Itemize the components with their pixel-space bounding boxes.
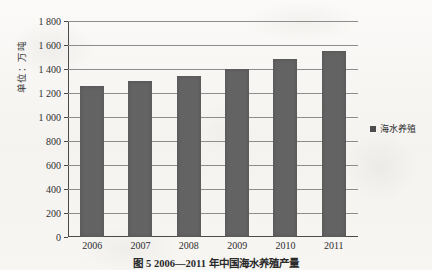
- chart-legend: 海水养殖: [370, 122, 416, 135]
- bar-slot: [68, 21, 116, 237]
- plot-area: 02004006008001 0001 2001 4001 6001 800: [68, 21, 358, 237]
- bar-2010: [273, 59, 297, 237]
- x-axis-label-2008: 2008: [165, 240, 213, 251]
- y-axis-tick-label: 1 200: [39, 88, 62, 99]
- y-axis-tick-label: 800: [46, 136, 61, 147]
- bars-layer: [68, 21, 358, 237]
- bar-slot: [165, 21, 213, 237]
- x-axis-label-2011: 2011: [310, 240, 358, 251]
- legend-label-0: 海水养殖: [380, 122, 416, 135]
- y-axis-tick-label: 400: [46, 184, 61, 195]
- y-axis-tick-label: 1 600: [39, 40, 62, 51]
- bar-2008: [177, 76, 201, 237]
- bar-2006: [80, 86, 104, 237]
- y-axis-tick-label: 1 400: [39, 64, 62, 75]
- bar-slot: [116, 21, 164, 237]
- bar-slot: [261, 21, 309, 237]
- legend-swatch-icon: [370, 126, 376, 132]
- y-axis-tick-label: 0: [56, 232, 61, 243]
- x-axis-label-2009: 2009: [213, 240, 261, 251]
- y-axis-tick-label: 600: [46, 160, 61, 171]
- y-axis-title: 单位：万吨: [14, 22, 28, 112]
- figure-caption: 图 5 2006—2011 年中国海水养殖产量: [0, 255, 432, 270]
- x-axis-label-2006: 2006: [68, 240, 116, 251]
- y-axis-tick-label: 1 800: [39, 16, 62, 27]
- x-axis-labels: 200620072008200920102011: [68, 240, 358, 251]
- bar-2011: [322, 51, 346, 237]
- bar-slot: [213, 21, 261, 237]
- y-axis-tick: [64, 237, 68, 238]
- bar-2007: [128, 81, 152, 237]
- bar-2009: [225, 69, 249, 237]
- y-axis-tick-label: 200: [46, 208, 61, 219]
- bar-slot: [310, 21, 358, 237]
- x-axis-label-2007: 2007: [116, 240, 164, 251]
- bar-chart-figure: 单位：万吨 02004006008001 0001 2001 4001 6001…: [0, 0, 432, 270]
- y-axis-tick-label: 1 000: [39, 112, 62, 123]
- x-axis-label-2010: 2010: [261, 240, 309, 251]
